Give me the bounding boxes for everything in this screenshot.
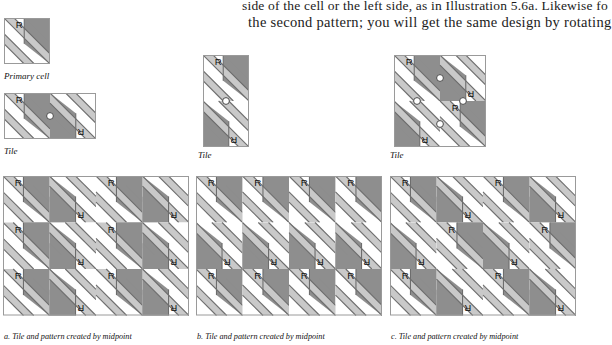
- cell-letter-r: R: [541, 224, 548, 235]
- cell-letter-r: R: [77, 257, 84, 268]
- pattern-cell: R: [196, 223, 243, 270]
- pattern-cell: R: [243, 269, 290, 316]
- pattern-cell: R: [203, 55, 249, 101]
- pattern-cell: R: [530, 223, 577, 270]
- pattern-cell: R: [3, 176, 50, 223]
- rotation-center-dot: [460, 98, 467, 105]
- cell-letter-r: R: [16, 94, 23, 105]
- caption-c: c. Tile and pattern created by midpoint: [391, 332, 518, 341]
- pattern-cell: R: [143, 269, 190, 316]
- fig-tile-a-svg: RR: [4, 93, 96, 139]
- pattern-cell: R: [143, 223, 190, 270]
- cell-letter-r: R: [464, 303, 471, 314]
- body-text-line-1: side of the cell or the left side, as in…: [242, 0, 608, 14]
- cell-letter-r: R: [254, 177, 261, 188]
- pattern-cell: R: [437, 176, 484, 223]
- pattern-cell: R: [289, 223, 336, 270]
- pattern-cell: R: [50, 223, 97, 270]
- cell-letter-r: R: [301, 270, 308, 281]
- figure-primary-cell: R: [4, 18, 50, 64]
- cell-letter-r: R: [495, 270, 502, 281]
- cell-letter-r: R: [402, 177, 409, 188]
- cell-letter-r: R: [254, 270, 261, 281]
- label-tile-b: Tile: [198, 150, 212, 160]
- rotation-center-dot: [437, 75, 444, 82]
- pattern-cell: R: [4, 18, 50, 64]
- fig-pattern-a-svg: RRRRRRRRRRRR: [3, 176, 189, 316]
- rotation-center-dot: [47, 113, 54, 120]
- fig-primary-cell-svg: R: [4, 18, 50, 64]
- figure-pattern-c: RRRRRRRRRRRR: [390, 176, 576, 316]
- pattern-cell: R: [336, 176, 383, 223]
- pattern-cell: R: [336, 223, 383, 270]
- cell-letter-r: R: [317, 257, 324, 268]
- label-primary-cell: Primary cell: [4, 71, 49, 81]
- cell-letter-r: R: [108, 224, 115, 235]
- rotation-center-dot: [437, 121, 444, 128]
- cell-letter-r: R: [208, 177, 215, 188]
- pattern-cell: R: [3, 269, 50, 316]
- cell-letter-r: R: [347, 177, 354, 188]
- cell-letter-r: R: [77, 210, 84, 221]
- pattern-cell: R: [483, 269, 530, 316]
- figure-tile-c: RRRR: [394, 55, 486, 147]
- figure-tile-a: RR: [4, 93, 96, 139]
- cell-letter-r: R: [108, 270, 115, 281]
- pattern-cell: R: [394, 55, 440, 101]
- pattern-cell: R: [196, 269, 243, 316]
- cell-letter-r: R: [467, 89, 474, 100]
- cell-letter-r: R: [270, 257, 277, 268]
- cell-letter-r: R: [347, 270, 354, 281]
- cell-letter-r: R: [224, 257, 231, 268]
- cell-letter-r: R: [301, 177, 308, 188]
- pattern-cell: R: [96, 176, 143, 223]
- cell-letter-r: R: [448, 224, 455, 235]
- pattern-cell: R: [483, 176, 530, 223]
- pattern-cell: R: [390, 269, 437, 316]
- cell-letter-r: R: [495, 177, 502, 188]
- caption-a: a. Tile and pattern created by midpoint: [4, 332, 132, 341]
- pattern-cell: R: [440, 101, 486, 147]
- fig-pattern-c-svg: RRRRRRRRRRRR: [390, 176, 576, 316]
- pattern-cell: R: [50, 269, 97, 316]
- pattern-cell: R: [196, 176, 243, 223]
- cell-letter-r: R: [15, 270, 22, 281]
- label-tile-a: Tile: [4, 146, 18, 156]
- cell-letter-r: R: [557, 210, 564, 221]
- pattern-cell: R: [96, 223, 143, 270]
- pattern-cell: R: [530, 176, 577, 223]
- pattern-cell: R: [483, 223, 530, 270]
- cell-letter-r: R: [15, 177, 22, 188]
- pattern-cell: R: [96, 269, 143, 316]
- cell-letter-r: R: [77, 127, 84, 138]
- cell-letter-r: R: [77, 303, 84, 314]
- pattern-cell: R: [3, 223, 50, 270]
- pattern-cell: R: [530, 269, 577, 316]
- cell-letter-r: R: [208, 270, 215, 281]
- pattern-cell: R: [50, 176, 97, 223]
- cell-letter-r: R: [406, 56, 413, 67]
- pattern-cell: R: [143, 176, 190, 223]
- rotation-center-dot: [414, 98, 421, 105]
- rotation-center-dot: [223, 98, 230, 105]
- cell-letter-r: R: [170, 257, 177, 268]
- cell-letter-r: R: [108, 177, 115, 188]
- cell-letter-r: R: [215, 56, 222, 67]
- figure-pattern-a: RRRRRRRRRRRR: [3, 176, 189, 316]
- pattern-cell: R: [243, 176, 290, 223]
- cell-letter-r: R: [363, 257, 370, 268]
- pattern-cell: R: [243, 223, 290, 270]
- pattern-cell: R: [440, 55, 486, 101]
- pattern-cell: R: [336, 269, 383, 316]
- cell-letter-r: R: [464, 210, 471, 221]
- cell-letter-r: R: [418, 257, 425, 268]
- cell-letter-r: R: [170, 210, 177, 221]
- cell-letter-r: R: [170, 303, 177, 314]
- figure-pattern-b: RRRRRRRRRRRR: [196, 176, 382, 316]
- pattern-cell: R: [203, 101, 249, 147]
- cell-letter-r: R: [15, 224, 22, 235]
- cell-letter-r: R: [230, 135, 237, 146]
- fig-tile-b-svg: RR: [203, 55, 249, 147]
- fig-tile-c-svg: RRRR: [394, 55, 486, 147]
- pattern-cell: R: [4, 93, 50, 139]
